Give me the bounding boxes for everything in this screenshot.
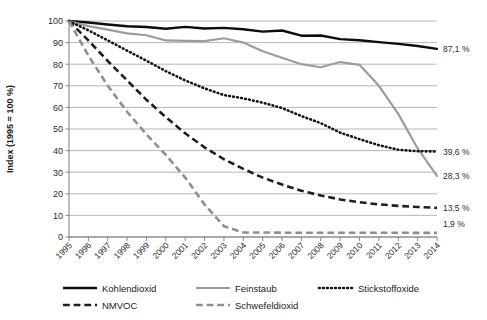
chart-canvas: 0102030405060708090100 19951996199719981… <box>0 0 487 320</box>
y-tick-label-0: 0 <box>58 232 63 242</box>
x-tick-label-1998: 1998 <box>112 240 133 261</box>
x-tick-label-2012: 2012 <box>383 240 404 261</box>
x-tick-label-1999: 1999 <box>131 240 152 261</box>
y-tick-label-80: 80 <box>53 60 63 70</box>
y-tick-label-50: 50 <box>53 124 63 134</box>
end-label-stickstoffoxide: 39,6 % <box>443 147 470 157</box>
end-value-labels: 87,1 %28,3 %39,6 %13,5 %1,9 % <box>443 44 470 229</box>
series-line-schwefeldioxid <box>69 21 437 233</box>
legend-label-kohlendioxid: Kohlendioxid <box>102 283 156 294</box>
legend-label-schwefeldioxid: Schwefeldioxid <box>235 300 298 311</box>
y-tick-label-60: 60 <box>53 103 63 113</box>
series-line-stickstoffoxide <box>69 21 437 151</box>
y-tick-labels: 0102030405060708090100 <box>48 16 63 242</box>
x-tick-label-1996: 1996 <box>73 240 94 261</box>
y-tick-label-30: 30 <box>53 168 63 178</box>
x-tick-label-2011: 2011 <box>364 240 384 260</box>
chart-legend: KohlendioxidFeinstaubStickstoffoxideNMVO… <box>63 283 419 311</box>
x-tick-label-2004: 2004 <box>228 240 249 261</box>
x-tick-label-2001: 2001 <box>170 240 191 261</box>
x-tick-label-2009: 2009 <box>325 240 346 261</box>
x-tick-label-2014: 2014 <box>421 240 442 261</box>
x-tick-label-2005: 2005 <box>247 240 268 261</box>
x-tick-label-2008: 2008 <box>305 240 326 261</box>
x-tick-label-2007: 2007 <box>286 240 307 261</box>
y-axis-title: Index (1995 = 100 %) <box>5 85 15 173</box>
legend-label-feinstaub: Feinstaub <box>235 283 277 294</box>
series-line-kohlendioxid <box>69 21 437 49</box>
end-label-kohlendioxid: 87,1 % <box>443 44 470 54</box>
y-tick-label-20: 20 <box>53 189 63 199</box>
x-tick-label-2010: 2010 <box>344 240 365 261</box>
y-tick-label-40: 40 <box>53 146 63 156</box>
end-label-nmvoc: 13,5 % <box>443 203 470 213</box>
x-tick-label-2006: 2006 <box>267 240 288 261</box>
y-tick-label-10: 10 <box>53 211 63 221</box>
y-tick-label-100: 100 <box>48 16 63 26</box>
end-label-schwefeldioxid: 1,9 % <box>443 219 465 229</box>
legend-label-stickstoffoxide: Stickstoffoxide <box>358 283 419 294</box>
x-tick-label-1997: 1997 <box>92 240 113 261</box>
x-tick-label-1995: 1995 <box>53 240 74 261</box>
x-tick-label-2000: 2000 <box>150 240 171 261</box>
emissions-index-chart: 0102030405060708090100 19951996199719981… <box>0 0 487 320</box>
x-tick-label-2013: 2013 <box>402 240 423 261</box>
series-line-feinstaub <box>69 21 437 176</box>
y-tick-label-90: 90 <box>53 38 63 48</box>
x-tick-label-2003: 2003 <box>208 240 229 261</box>
x-tick-labels: 1995199619971998199920002001200220032004… <box>53 240 442 261</box>
x-tick-label-2002: 2002 <box>189 240 210 261</box>
legend-label-nmvoc: NMVOC <box>102 300 138 311</box>
series-layer <box>69 21 437 233</box>
axis-layer <box>66 21 438 241</box>
end-label-feinstaub: 28,3 % <box>443 171 470 181</box>
y-tick-label-70: 70 <box>53 81 63 91</box>
